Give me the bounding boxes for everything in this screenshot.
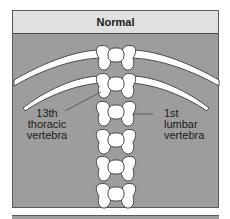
vertebra-1 <box>96 45 135 70</box>
rib-left-lower <box>23 76 103 111</box>
vertebrae <box>96 45 135 208</box>
next-panel-edge <box>12 215 219 219</box>
label-13th-thoracic-vertebra: 13th thoracic vertebra <box>21 108 73 141</box>
label-1st-lumbar-vertebra: 1st lumbar vertebra <box>164 108 220 141</box>
vertebra-3-13th-thoracic <box>96 101 135 126</box>
panel-title: Normal <box>13 11 218 34</box>
vertebra-5 <box>96 156 135 181</box>
vertebra-4 <box>96 129 135 154</box>
vertebra-2 <box>96 73 135 98</box>
diagram-panel: Normal <box>12 10 219 208</box>
label-line: vertebra <box>164 130 220 141</box>
label-line: vertebra <box>21 130 73 141</box>
rib-right-lower <box>129 76 209 111</box>
vertebra-6 <box>96 183 135 208</box>
